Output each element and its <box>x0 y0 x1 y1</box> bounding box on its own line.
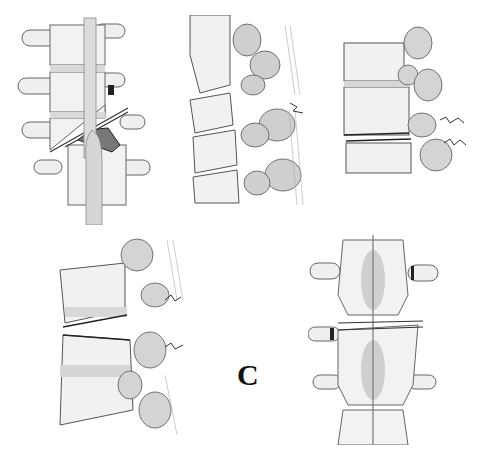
spine-anterior-illustration <box>10 10 170 225</box>
spine-lateral-illustration-1 <box>185 15 310 205</box>
figure-label: C <box>237 358 259 392</box>
illustration-panel-lateral-separation <box>55 235 190 435</box>
illustration-panel-lateral-flexion <box>185 15 310 205</box>
illustration-panel-anterior-fracture <box>10 10 170 225</box>
illustration-panel-posterior-fracture <box>308 235 443 445</box>
spine-posterior-illustration <box>308 235 443 445</box>
spine-lateral-illustration-3 <box>55 235 190 435</box>
spine-lateral-illustration-2 <box>340 25 475 175</box>
illustration-panel-lateral-distraction <box>340 25 475 175</box>
